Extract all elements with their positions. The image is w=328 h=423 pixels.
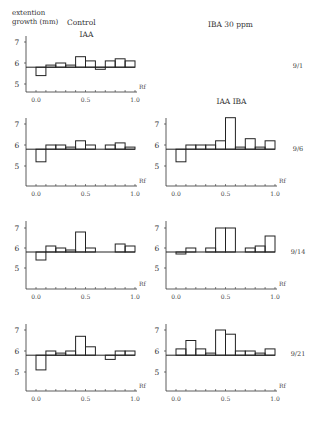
histogram-bar: [265, 141, 275, 149]
panel-title: IAA: [80, 30, 94, 39]
x-tick-label: 1.0: [130, 395, 140, 402]
histogram-bar: [66, 147, 76, 149]
y-tick-label: 6: [155, 347, 160, 356]
histogram-bar: [76, 141, 86, 149]
histogram-panel: 5670.00.51.0RfIAA IBA: [155, 97, 287, 197]
histogram-bar: [36, 252, 46, 260]
y-tick-label: 5: [155, 264, 160, 273]
y-tick-label: 5: [15, 162, 20, 171]
x-axis-label: Rf: [139, 177, 147, 184]
x-axis-label: Rf: [139, 382, 147, 389]
histogram-bar: [46, 145, 56, 149]
y-tick-label: 5: [15, 264, 20, 273]
histogram-bar: [186, 341, 196, 356]
histogram-bar: [105, 61, 115, 67]
histogram-bar: [46, 351, 56, 355]
histogram-panel: 5670.00.51.0Rf9/21: [15, 324, 306, 402]
histogram-bar: [186, 248, 196, 252]
histogram-bar: [125, 61, 135, 67]
y-tick-label: 7: [155, 224, 160, 233]
histogram-bar: [226, 118, 236, 150]
histogram-bar: [125, 147, 135, 149]
histogram-bar: [56, 353, 66, 355]
histogram-bar: [56, 63, 66, 67]
histogram-bar: [95, 67, 105, 69]
histogram-bar: [176, 349, 186, 355]
histogram-bar: [235, 351, 245, 355]
panel-title: IAA IBA: [216, 97, 247, 106]
histogram-bar: [86, 61, 96, 67]
histogram-bar: [36, 355, 46, 370]
x-tick-label: 0.5: [81, 96, 91, 103]
histogram-bar: [36, 67, 46, 75]
histogram-bar: [115, 143, 125, 149]
y-tick-label: 7: [15, 120, 20, 129]
histogram-bar: [66, 351, 76, 355]
histogram-bar: [206, 145, 216, 149]
date-label: 9/14: [291, 248, 306, 256]
histogram-bar: [226, 334, 236, 355]
x-tick-label: 0.5: [81, 395, 91, 402]
x-tick-label: 0.0: [31, 293, 41, 300]
histogram-bar: [255, 353, 265, 355]
histogram-bar: [76, 232, 86, 252]
y-tick-label: 6: [15, 59, 20, 68]
histogram-bar: [66, 250, 76, 252]
y-tick-label: 5: [155, 162, 160, 171]
histogram-bar: [196, 349, 206, 355]
x-tick-label: 0.5: [221, 293, 231, 300]
y-tick-label: 7: [15, 326, 20, 335]
y-tick-label: 5: [15, 368, 20, 377]
histogram-bar: [86, 347, 96, 355]
x-tick-label: 0.0: [31, 190, 41, 197]
histogram-bar: [46, 65, 56, 67]
y-tick-label: 7: [155, 120, 160, 129]
x-tick-label: 0.5: [81, 190, 91, 197]
y-tick-label: 6: [155, 141, 160, 150]
x-tick-label: 0.5: [221, 190, 231, 197]
x-tick-label: 0.5: [81, 293, 91, 300]
x-tick-label: 0.0: [171, 190, 181, 197]
x-tick-label: 0.0: [31, 395, 41, 402]
histogram-bar: [265, 236, 275, 252]
histogram-bar: [245, 139, 255, 150]
y-tick-label: 6: [155, 244, 160, 253]
date-label: 9/21: [291, 350, 306, 358]
histogram-bar: [56, 145, 66, 149]
date-label: 9/6: [293, 145, 303, 153]
histogram-bar: [125, 351, 135, 355]
y-tick-label: 6: [15, 347, 20, 356]
x-axis-label: Rf: [279, 177, 287, 184]
histogram-bar: [216, 330, 226, 355]
x-tick-label: 1.0: [270, 293, 280, 300]
histogram-panel: 5670.00.51.0Rf9/6: [15, 118, 304, 197]
histogram-bar: [46, 246, 56, 252]
y-tick-label: 5: [155, 368, 160, 377]
histogram-bar: [115, 351, 125, 355]
histogram-panel: 5670.00.51.0Rf: [155, 221, 287, 300]
histogram-panel: 5670.00.51.0Rf9/14: [15, 221, 306, 300]
y-tick-label: 7: [15, 38, 20, 47]
y-tick-label: 6: [15, 244, 20, 253]
histogram-bar: [216, 228, 226, 252]
histogram-bar: [105, 145, 115, 149]
histogram-bar: [265, 349, 275, 355]
y-tick-label: 7: [15, 224, 20, 233]
x-tick-label: 0.0: [171, 293, 181, 300]
histogram-bar: [255, 147, 265, 149]
histogram-bar: [125, 246, 135, 252]
histogram-bar: [245, 351, 255, 355]
x-tick-label: 1.0: [270, 395, 280, 402]
histogram-bar: [255, 246, 265, 252]
histogram-bar: [76, 57, 86, 67]
histogram-bar: [196, 145, 206, 149]
histogram-bar: [36, 149, 46, 162]
histogram-bar: [226, 228, 236, 252]
histogram-bar: [105, 355, 115, 359]
x-axis-label: Rf: [279, 382, 287, 389]
chart-svg: 5670.00.51.0RfIAA9/15670.00.51.0Rf9/6567…: [0, 0, 328, 423]
histogram-panel: 5670.00.51.0Rf: [155, 324, 287, 402]
x-tick-label: 1.0: [130, 190, 140, 197]
x-tick-label: 1.0: [270, 190, 280, 197]
histogram-bar: [235, 147, 245, 149]
